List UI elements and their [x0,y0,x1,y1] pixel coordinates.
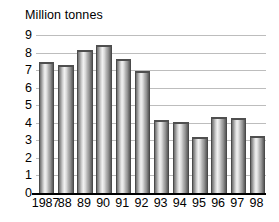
bar-top-cap [39,62,55,64]
bar [173,123,189,193]
bar [250,137,266,193]
x-tick-label: 88 [55,196,75,210]
bar-top-cap [96,45,112,47]
bar [135,72,151,193]
bar-top-cap [58,65,74,67]
bar-chart: Million tonnes 0123456789 19878889909192… [0,0,279,222]
y-tick-label: 4 [2,117,32,130]
x-tick-label: 92 [131,196,151,210]
bar-top-cap [231,118,247,120]
y-axis-labels: 0123456789 [0,35,32,193]
x-tick-label: 91 [112,196,132,210]
bar [96,46,112,193]
bar [154,121,170,193]
x-tick-label: 93 [151,196,171,210]
y-tick-label: 1 [2,169,32,182]
x-tick-label: 97 [227,196,247,210]
x-tick-label: 89 [74,196,94,210]
y-tick-label: 6 [2,82,32,95]
y-tick-label: 9 [2,29,32,42]
x-axis-line [32,193,266,195]
x-tick-label: 90 [93,196,113,210]
x-tick-label: 96 [208,196,228,210]
y-tick-label: 3 [2,134,32,147]
bar-top-cap [250,136,266,138]
bar-top-cap [135,71,151,73]
y-tick-label: 7 [2,64,32,77]
bar [39,63,55,193]
bar [231,119,247,193]
bar-top-cap [116,59,132,61]
bar-top-cap [173,122,189,124]
x-tick-label: 94 [170,196,190,210]
bar [77,51,93,193]
bar [116,60,132,193]
bar-top-cap [154,120,170,122]
bar-top-cap [192,137,208,139]
chart-title: Million tonnes [25,8,103,22]
bars-group [36,35,266,193]
bar [211,118,227,193]
y-tick-label: 8 [2,47,32,60]
bar-top-cap [211,117,227,119]
y-tick-label: 2 [2,152,32,165]
x-axis-labels: 19878889909192939495969798 [36,196,266,216]
x-tick-label: 98 [246,196,266,210]
bar [58,66,74,193]
bar [192,138,208,193]
bar-top-cap [77,50,93,52]
x-tick-label: 95 [189,196,209,210]
y-tick-label: 5 [2,99,32,112]
y-tick-label: 0 [2,187,32,200]
